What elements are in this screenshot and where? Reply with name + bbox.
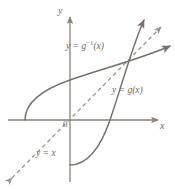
figure-container: y x 0 y = g−1(x) y = g(x) y = x — [0, 0, 175, 189]
g-inverse-curve-label: y = g−1(x) — [66, 40, 104, 52]
g-inverse-label-suffix: (x) — [93, 41, 104, 51]
x-axis-label: x — [160, 121, 164, 131]
g-curve-label: y = g(x) — [112, 86, 143, 96]
origin-label: 0 — [63, 120, 68, 129]
g-inverse-label-base: y = g — [66, 41, 86, 51]
graph-canvas — [0, 0, 175, 189]
y-axis-label: y — [58, 6, 62, 16]
identity-line-label: y = x — [36, 149, 56, 159]
g-inverse-curve — [25, 46, 170, 120]
